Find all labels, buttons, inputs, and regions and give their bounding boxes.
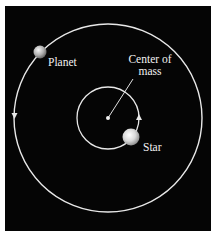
- planet-orbit-arrow-icon: [12, 113, 18, 119]
- star-icon: [123, 129, 140, 146]
- star-orbit-arrow-icon: [136, 114, 142, 120]
- planet-icon: [34, 46, 47, 59]
- center-of-mass-label-line1: Center of: [128, 53, 171, 65]
- planet-label: Planet: [48, 56, 78, 68]
- orbit-diagram: Planet Center of mass Star: [0, 0, 216, 238]
- center-of-mass-dot: [106, 116, 110, 120]
- center-of-mass-label-line2: mass: [139, 65, 163, 77]
- center-of-mass-leader-line: [108, 79, 133, 118]
- star-label: Star: [143, 141, 162, 153]
